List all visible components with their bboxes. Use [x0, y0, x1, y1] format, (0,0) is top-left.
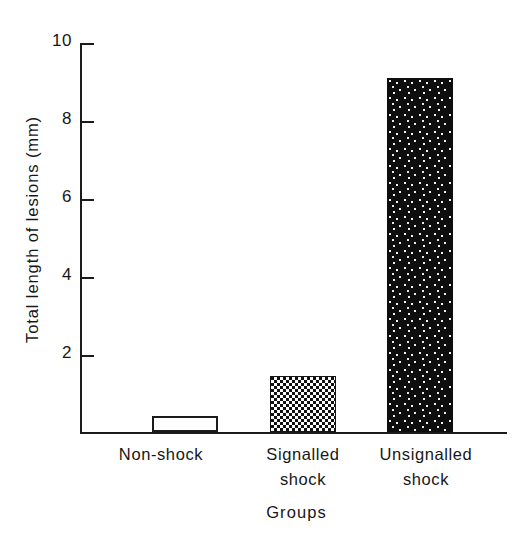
x-category-label-signalled-shock: Signalled shock	[237, 442, 369, 492]
y-tick-label-6: 6	[28, 187, 72, 207]
bar-non-shock	[152, 416, 218, 432]
x-axis-title: Groups	[266, 503, 327, 521]
bar-signalled-shock	[270, 376, 336, 432]
bar-chart: Total length of lesions (mm) 10 8 6 4 2	[0, 0, 531, 557]
plot-area	[82, 43, 507, 432]
y-tick-label-8: 8	[28, 109, 72, 129]
x-category-label-unsignalled-shock: Unsignalled shock	[352, 442, 500, 492]
y-tick-label-10: 10	[28, 31, 72, 51]
y-tick-label-4: 4	[28, 265, 72, 285]
bar-unsignalled-shock	[387, 78, 453, 432]
x-axis-line	[80, 432, 507, 434]
x-category-label-non-shock: Non-shock	[96, 442, 226, 467]
y-tick-label-2: 2	[28, 343, 72, 363]
x-axis-title-wrap: Groups	[0, 503, 531, 522]
